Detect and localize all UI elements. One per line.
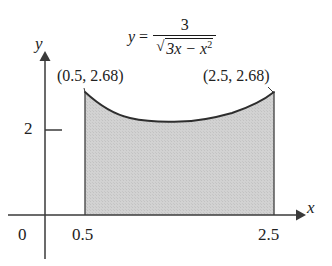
- equation-fraction: 3 √ 3x − x2: [153, 16, 216, 58]
- radical-expression: √ 3x − x2: [156, 37, 213, 58]
- shaded-area-region: [85, 92, 274, 215]
- x-tick-label-2point5: 2.5: [258, 226, 279, 243]
- right-label-leader: [268, 87, 273, 92]
- radicand-exponent: 2: [207, 39, 212, 50]
- equation-relation: =: [139, 28, 148, 46]
- x-axis-arrowhead: [296, 210, 306, 221]
- x-axis-label: x: [307, 199, 315, 216]
- annotation-left-endpoint: (0.5, 2.68): [57, 68, 124, 84]
- radicand: 3x − x2: [165, 38, 213, 58]
- left-label-leader: [84, 88, 85, 92]
- radical-sign-icon: √: [156, 38, 164, 55]
- radicand-base: 3x − x: [166, 40, 207, 57]
- x-tick-label-0point5: 0.5: [72, 226, 93, 243]
- equation-numerator: 3: [173, 16, 197, 35]
- origin-label: 0: [18, 226, 27, 243]
- y-axis-label: y: [35, 35, 43, 52]
- equation-lhs: y: [128, 28, 135, 46]
- y-tick-label-2: 2: [24, 120, 33, 137]
- annotation-right-endpoint: (2.5, 2.68): [203, 68, 270, 84]
- equation-denominator: √ 3x − x2: [153, 36, 216, 58]
- figure-area-under-curve: y x 2 0 0.5 2.5 (0.5, 2.68) (2.5, 2.68) …: [0, 0, 332, 266]
- equation-annotation: y = 3 √ 3x − x2: [128, 16, 216, 58]
